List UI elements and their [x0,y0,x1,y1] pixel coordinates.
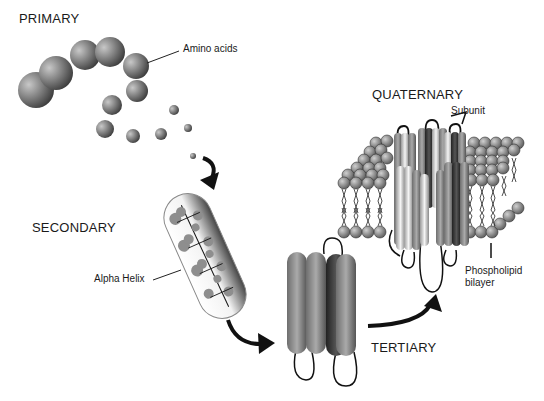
tertiary-helix-bundle [287,238,357,386]
phospholipid-bilayer-right [464,137,524,258]
arrow-tertiary-to-quaternary [368,305,430,326]
stage-label-primary: PRIMARY [19,12,79,25]
alpha-helix-capsule [156,186,254,326]
diagram-artwork [0,0,544,401]
callout-alpha-helix: Alpha Helix [94,274,145,284]
amino-acid-chain [18,37,196,159]
callout-amino-acids: Amino acids [183,44,237,54]
callout-phospholipid-line2: bilayer [465,278,494,288]
stage-label-quaternary: QUATERNARY [372,88,463,101]
stage-label-secondary: SECONDARY [32,221,116,234]
protein-structure-diagram: PRIMARY Amino acids SECONDARY Alpha Heli… [0,0,544,401]
quaternary-channel [389,112,469,292]
stage-label-tertiary: TERTIARY [371,341,436,354]
callout-phospholipid-line1: Phospholipid [465,266,522,276]
callout-subunit: Subunit [451,106,485,116]
alpha-helix-callout-line [153,270,181,280]
arrow-secondary-to-tertiary [228,320,262,344]
phospholipid-bilayer-left [338,135,393,238]
